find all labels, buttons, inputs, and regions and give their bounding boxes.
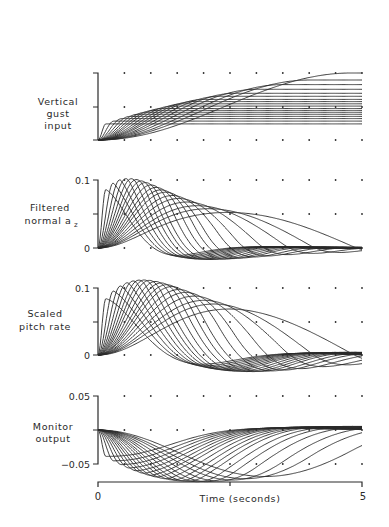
pitch-tick-zero: 0	[84, 350, 90, 361]
grid-dot	[150, 321, 152, 323]
grid-dot	[203, 247, 205, 249]
grid-dot	[176, 139, 178, 141]
grid-dot	[203, 321, 205, 323]
grid-dot	[361, 321, 363, 323]
grid-dot	[124, 463, 126, 465]
az-ylabel: Filtered normal a z	[25, 202, 79, 229]
grid-dot	[176, 287, 178, 289]
grid-dot	[150, 72, 152, 74]
grid-dot	[335, 179, 337, 181]
grid-dot	[176, 179, 178, 181]
grid-dot	[282, 321, 284, 323]
grid-dot	[124, 213, 126, 215]
grid-dot	[361, 429, 363, 431]
monitor-ylabel: Monitor output	[33, 421, 73, 444]
scaled-pitch-rate-curves	[98, 280, 362, 372]
pitch-ylabel: Scaled pitch rate	[19, 308, 71, 332]
grid-dot	[229, 429, 231, 431]
response-curve	[98, 180, 362, 258]
grid-dot	[308, 179, 310, 181]
pitch-tick-top: 0.1	[75, 283, 90, 294]
figure: Vertical gust input 0.1 0 Filtered norma…	[0, 0, 389, 527]
grid-dot	[361, 106, 363, 108]
curve-families	[98, 73, 362, 482]
grid-dot	[229, 247, 231, 249]
grid-dot	[361, 179, 363, 181]
grid-dot	[150, 213, 152, 215]
grid-dot	[150, 354, 152, 356]
response-curve	[98, 300, 362, 366]
grid-dot	[176, 395, 178, 397]
grid-dot	[176, 247, 178, 249]
grid-dot	[282, 463, 284, 465]
grid-dot	[203, 139, 205, 141]
grid-dot	[282, 106, 284, 108]
svg-text:z: z	[74, 221, 78, 229]
grid-dot	[335, 139, 337, 141]
grid-dot	[176, 429, 178, 431]
grid-dot	[203, 429, 205, 431]
az-tick-top: 0.1	[75, 175, 90, 186]
grid-dot	[308, 354, 310, 356]
grid-dot	[229, 213, 231, 215]
grid-dot	[361, 287, 363, 289]
response-curve	[98, 290, 362, 371]
az-tick-zero: 0	[84, 243, 90, 254]
grid-dot	[335, 321, 337, 323]
monitor-tick-top: 0.05	[69, 391, 90, 402]
grid-dot	[282, 139, 284, 141]
grid-dot	[203, 395, 205, 397]
grid-dot	[308, 139, 310, 141]
grid-dot	[308, 287, 310, 289]
grid-dot	[150, 287, 152, 289]
grid-dot	[150, 247, 152, 249]
grid-dot	[335, 429, 337, 431]
grid-dot	[256, 72, 258, 74]
svg-text:Filtered: Filtered	[30, 202, 70, 213]
grid-dot	[335, 395, 337, 397]
grid-dot	[203, 179, 205, 181]
gust-axis	[93, 73, 98, 140]
grid-dot	[256, 106, 258, 108]
grid-dot	[124, 179, 126, 181]
response-curve	[98, 116, 362, 140]
grid-dot	[282, 354, 284, 356]
grid-dot	[361, 213, 363, 215]
response-curve	[98, 280, 362, 370]
pitch-axis	[93, 288, 98, 355]
grid-dot	[229, 463, 231, 465]
grid-dot	[229, 287, 231, 289]
grid-dot	[256, 287, 258, 289]
grid-dot	[229, 139, 231, 141]
grid-dot	[256, 139, 258, 141]
response-curve	[98, 179, 362, 259]
grid-dot	[335, 106, 337, 108]
grid-dot	[203, 213, 205, 215]
grid-dot	[124, 72, 126, 74]
x-axis-title: Time (seconds)	[199, 493, 281, 504]
grid-dot	[361, 395, 363, 397]
grid-dot	[335, 72, 337, 74]
grid-dot	[229, 321, 231, 323]
grid-dot	[150, 395, 152, 397]
grid-dot	[282, 179, 284, 181]
grid-dot	[361, 247, 363, 249]
grid-dot	[229, 354, 231, 356]
grid-dot	[229, 106, 231, 108]
svg-text:Vertical: Vertical	[38, 96, 78, 107]
grid-dot	[282, 213, 284, 215]
monitor-tick-bottom: −0.05	[61, 459, 90, 470]
grid-dot	[282, 395, 284, 397]
grid-dot	[308, 321, 310, 323]
grid-dot	[256, 429, 258, 431]
grid-dot	[308, 395, 310, 397]
grid-dot	[256, 354, 258, 356]
grid-dot	[361, 354, 363, 356]
grid-dot	[335, 287, 337, 289]
az-axis	[93, 180, 98, 248]
grid-dot	[361, 72, 363, 74]
grid-dot	[176, 106, 178, 108]
grid-dot	[308, 213, 310, 215]
grid-dot	[282, 429, 284, 431]
grid-dot	[150, 179, 152, 181]
